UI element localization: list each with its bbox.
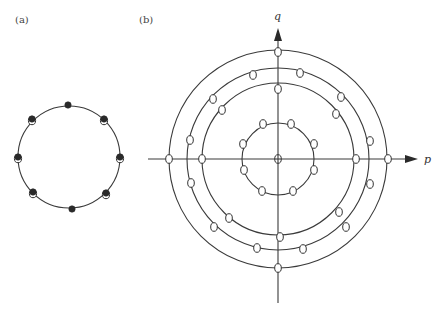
data-point [290,187,297,196]
data-point [240,140,247,149]
data-point [275,85,282,94]
q-axis-label: q [274,10,281,23]
data-point [259,187,266,196]
data-point [116,154,123,163]
data-point [102,190,109,199]
data-point [367,180,374,189]
panel-b-label: (b) [139,14,153,25]
data-point [188,179,195,188]
data-point [29,189,36,198]
data-point [333,110,340,119]
origin-point [275,155,282,164]
data-point [199,155,206,164]
panel-a-points [14,102,123,212]
data-point [226,214,233,223]
data-point [297,69,304,78]
p-axis-arrowhead-icon [405,155,418,163]
data-point [343,223,350,232]
p-axis-label: p [424,153,431,166]
data-point [65,102,71,108]
panel-a-label: (a) [15,14,29,25]
data-point [385,155,392,164]
panel-a: (a) [14,14,123,212]
data-point [241,166,248,175]
data-point [14,154,21,163]
data-point [275,48,282,57]
data-point [260,120,267,129]
data-point [187,136,194,145]
data-point [336,208,343,217]
data-point [311,166,318,175]
data-point [28,116,35,125]
q-axis-arrowhead-icon [274,28,282,41]
data-point [166,155,173,164]
data-point [250,71,257,80]
data-point [300,245,307,254]
data-point [367,137,374,146]
data-point [275,264,282,273]
data-point [338,93,345,102]
data-point [219,106,226,115]
data-point [288,120,295,129]
data-point [353,155,360,164]
figure: (a) (b) p q [0,0,439,317]
panel-b: (b) p q [139,10,431,303]
data-point [211,223,218,232]
data-point [69,206,75,212]
data-point [210,95,217,104]
data-point [311,140,318,149]
data-point [100,116,107,125]
data-point [254,244,261,253]
data-point [277,233,284,242]
